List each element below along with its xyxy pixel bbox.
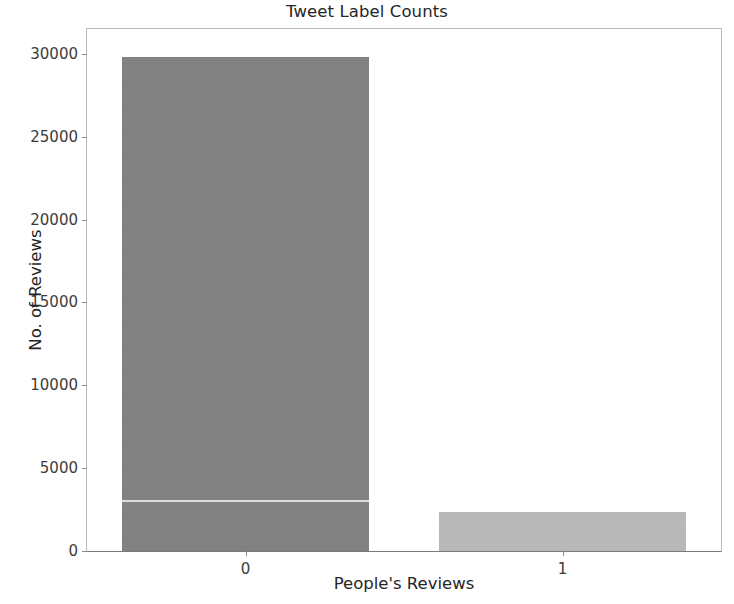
- y-axis-label: No. of Reviews: [22, 28, 50, 552]
- y-tick-mark: [82, 551, 87, 552]
- y-tick-mark: [82, 385, 87, 386]
- y-tick-mark: [82, 54, 87, 55]
- bar-0: [122, 57, 369, 551]
- bar-texture: [122, 57, 369, 551]
- x-axis-label: People's Reviews: [86, 574, 722, 593]
- y-tick-label: 0: [68, 542, 78, 560]
- scan-line-artifact: [122, 500, 369, 502]
- y-tick-mark: [82, 220, 87, 221]
- x-tick-mark: [246, 551, 247, 556]
- plot-area: 050001000015000200002500030000 01: [86, 28, 722, 552]
- bar-1: [439, 512, 686, 551]
- bar-chart-figure: Tweet Label Counts 050001000015000200002…: [0, 0, 734, 604]
- x-tick-mark: [563, 551, 564, 556]
- chart-title: Tweet Label Counts: [0, 2, 734, 21]
- y-tick-mark: [82, 468, 87, 469]
- bar-texture: [439, 512, 686, 551]
- y-tick-mark: [82, 302, 87, 303]
- y-tick-mark: [82, 137, 87, 138]
